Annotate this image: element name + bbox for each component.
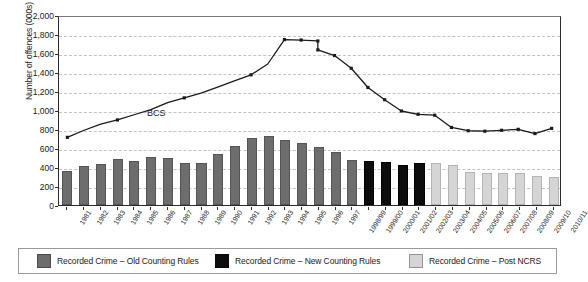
- y-axis-tick-label: 1,400: [14, 69, 54, 78]
- x-axis-tick-mark: [318, 207, 319, 210]
- x-axis-tick-mark: [418, 207, 419, 210]
- x-axis-tick-mark: [536, 207, 537, 210]
- y-axis-tick-label: 400: [14, 164, 54, 173]
- x-axis-tick-mark: [469, 207, 470, 210]
- x-axis-tick-mark: [217, 207, 218, 210]
- x-axis-tick-mark: [83, 207, 84, 210]
- x-axis-tick-mark: [368, 207, 369, 210]
- x-axis-tick-mark: [133, 207, 134, 210]
- y-axis-tick-label: 1,000: [14, 107, 54, 116]
- x-axis-tick-label: 1989: [213, 209, 227, 226]
- y-axis-tick-mark: [55, 16, 58, 17]
- x-axis-tick-mark: [486, 207, 487, 210]
- y-axis-tick-mark: [55, 73, 58, 74]
- x-axis-tick-label: 1985: [146, 209, 160, 226]
- y-axis-tick-mark: [55, 130, 58, 131]
- legend-label: Recorded Crime – Old Counting Rules: [57, 256, 199, 266]
- x-axis-tick-mark: [301, 207, 302, 210]
- y-axis-tick-mark: [55, 35, 58, 36]
- legend-swatch-old: [37, 254, 51, 268]
- x-axis-tick-label: 1993: [280, 209, 294, 226]
- x-axis-tick-label: 1992: [263, 209, 277, 226]
- x-axis-tick-label: 1984: [129, 209, 143, 226]
- x-axis-tick-mark: [234, 207, 235, 210]
- x-axis-tick-label: 1988: [196, 209, 210, 226]
- y-axis-tick-label: 0: [14, 202, 54, 211]
- x-axis-tick-mark: [335, 207, 336, 210]
- x-axis-tick-mark: [150, 207, 151, 210]
- x-axis-tick-label: 1990: [229, 209, 243, 226]
- y-axis-tick-label: 200: [14, 183, 54, 192]
- x-axis-tick-mark: [167, 207, 168, 210]
- y-axis-tick-label: 1,200: [14, 88, 54, 97]
- x-axis-tick-mark: [502, 207, 503, 210]
- x-axis-tick-mark: [452, 207, 453, 210]
- legend-label: Recorded Crime – Post NCRS: [429, 256, 541, 266]
- x-axis-tick-label: 1982: [95, 209, 109, 226]
- x-axis-tick-label: 1994: [296, 209, 310, 226]
- y-axis-tick-mark: [55, 149, 58, 150]
- x-axis-tick-mark: [553, 207, 554, 210]
- chart-legend: Recorded Crime – Old Counting RulesRecor…: [18, 248, 557, 274]
- legend-label: Recorded Crime – New Counting Rules: [235, 256, 380, 266]
- x-axis-tick-mark: [435, 207, 436, 210]
- legend-swatch-ncrs: [409, 254, 423, 268]
- x-axis-tick-mark: [385, 207, 386, 210]
- y-axis-tick-mark: [55, 187, 58, 188]
- y-axis-tick-label: 2,000: [14, 12, 54, 21]
- x-axis-tick-label: 1995: [313, 209, 327, 226]
- y-axis-title: Number of offences (000s): [24, 0, 34, 126]
- x-axis-tick-label: 1997: [347, 209, 361, 226]
- x-axis-tick-label: 1987: [179, 209, 193, 226]
- x-axis-tick-mark: [251, 207, 252, 210]
- y-axis-tick-label: 600: [14, 145, 54, 154]
- y-axis-tick-label: 1,600: [14, 50, 54, 59]
- x-axis-tick-label: 1996: [330, 209, 344, 226]
- y-axis-tick-mark: [55, 54, 58, 55]
- y-axis-tick-mark: [55, 92, 58, 93]
- x-axis-tick-label: 1991: [246, 209, 260, 226]
- x-axis-labels: 1981198219831984198519861987198819891990…: [58, 207, 561, 245]
- x-axis-tick-label: 1981: [78, 209, 92, 226]
- y-axis-tick-label: 800: [14, 126, 54, 135]
- x-axis-tick-mark: [268, 207, 269, 210]
- x-axis-tick-label: 1986: [162, 209, 176, 226]
- y-axis-tick-mark: [55, 168, 58, 169]
- x-axis-tick-mark: [184, 207, 185, 210]
- legend-item[interactable]: Recorded Crime – Old Counting Rules: [37, 249, 199, 273]
- x-axis-tick-mark: [351, 207, 352, 210]
- legend-item[interactable]: Recorded Crime – Post NCRS: [409, 249, 541, 273]
- x-axis-tick-mark: [100, 207, 101, 210]
- x-axis-tick-mark: [519, 207, 520, 210]
- legend-item[interactable]: Recorded Crime – New Counting Rules: [215, 249, 380, 273]
- y-axis-tick-mark: [55, 111, 58, 112]
- legend-swatch-new: [215, 254, 229, 268]
- x-axis-tick-mark: [117, 207, 118, 210]
- x-axis-tick-mark: [284, 207, 285, 210]
- x-axis-tick-mark: [66, 207, 67, 210]
- y-axis-tick-label: 1,800: [14, 31, 54, 40]
- x-axis-tick-mark: [402, 207, 403, 210]
- x-axis-tick-mark: [201, 207, 202, 210]
- x-axis-tick-label: 1983: [112, 209, 126, 226]
